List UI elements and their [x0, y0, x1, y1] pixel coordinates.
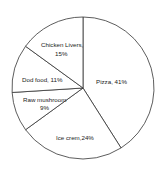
label-chicken-livers-2: 15% [55, 50, 68, 57]
label-ice-cream: Ice crem,24% [56, 134, 94, 141]
label-raw-mushroom-2: 9% [40, 104, 49, 111]
label-chicken-livers-1: Chicken Livers, [41, 41, 84, 48]
pie-chart: Pizza, 41% Ice crem,24% Raw mushroom 9% … [0, 0, 163, 169]
label-pizza: Pizza, 41% [96, 78, 127, 85]
label-raw-mushroom-1: Raw mushroom [23, 96, 66, 103]
label-dog-food: Dod food, 11% [22, 76, 63, 83]
